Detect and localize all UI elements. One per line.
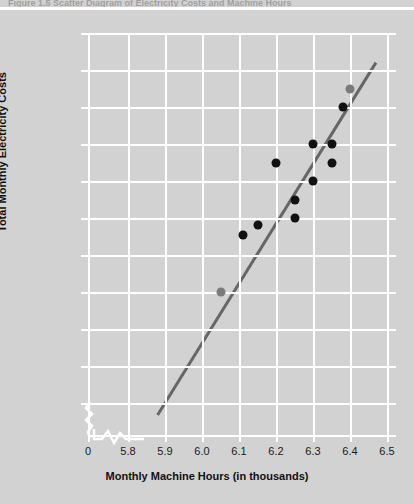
- data-point: [238, 230, 247, 239]
- x-axis-title: Monthly Machine Hours (in thousands): [0, 470, 414, 482]
- x-axis-tick: [276, 435, 278, 442]
- data-point: [309, 140, 318, 149]
- plot-area: [88, 33, 396, 435]
- x-tick-label: 6.2: [268, 445, 283, 457]
- gridline-vertical: [165, 33, 167, 435]
- x-tick-label: 6.0: [194, 445, 209, 457]
- x-tick-label: 5.9: [157, 445, 172, 457]
- x-tick-label: 6.3: [305, 445, 320, 457]
- x-axis-tick: [239, 435, 241, 442]
- y-axis-tick: [81, 366, 88, 368]
- gridline-vertical: [313, 33, 315, 435]
- y-axis-tick: [81, 255, 88, 257]
- data-point: [272, 158, 281, 167]
- gridline-vertical: [350, 33, 352, 435]
- data-point: [290, 195, 299, 204]
- y-axis-tick: [81, 218, 88, 220]
- data-point: [327, 140, 336, 149]
- data-point: [309, 177, 318, 186]
- x-tick-label: 5.8: [120, 445, 135, 457]
- x-tick-label: 6.4: [342, 445, 357, 457]
- data-point: [253, 221, 262, 230]
- y-axis-tick: [81, 70, 88, 72]
- chart-root: Figure 1.5 Scatter Diagram of Electricit…: [0, 0, 414, 504]
- y-axis-tick: [81, 292, 88, 294]
- x-axis-tick: [165, 435, 167, 442]
- title-divider: [0, 7, 414, 10]
- data-point: [290, 214, 299, 223]
- gridline-vertical: [202, 33, 204, 435]
- regression-line-segment: [158, 63, 376, 415]
- y-axis-tick: [81, 329, 88, 331]
- x-axis-tick: [202, 435, 204, 442]
- regression-endpoint-marker: [346, 84, 355, 93]
- data-point: [327, 158, 336, 167]
- x-axis-tick: [313, 435, 315, 442]
- y-axis-tick: [81, 181, 88, 183]
- gridline-vertical: [128, 33, 130, 435]
- chart-title: Figure 1.5 Scatter Diagram of Electricit…: [0, 0, 414, 7]
- x-tick-label: 0: [85, 445, 91, 457]
- regression-endpoint-marker: [216, 288, 225, 297]
- gridline-vertical: [276, 33, 278, 435]
- gridline-vertical: [387, 33, 389, 435]
- y-axis-tick: [81, 144, 88, 146]
- y-axis-tick: [81, 33, 88, 35]
- y-axis-tick: [81, 107, 88, 109]
- y-axis-title: Total Monthly Electricity Costs: [0, 72, 8, 232]
- x-axis-tick: [350, 435, 352, 442]
- data-point: [338, 103, 347, 112]
- x-tick-label: 6.1: [231, 445, 246, 457]
- x-axis-tick: [387, 435, 389, 442]
- x-tick-label: 6.5: [379, 445, 394, 457]
